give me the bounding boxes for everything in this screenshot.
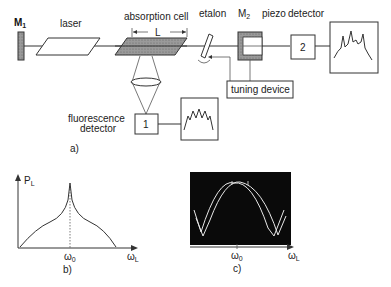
detector-2: detector 2 [288,8,378,73]
diagram-c: ω0 ωL c) [190,172,300,274]
fluorescence-label-line2: detector [80,123,117,134]
fluorescence-detector: fluorescence detector 1 [68,98,218,140]
piezo-label: piezo [262,8,286,19]
mirror-m1-label: M1 [14,17,26,29]
diagram-a: M1 laser absorption cell L [14,8,378,154]
detector1-box-label: 1 [143,119,149,130]
tuning-device-label: tuning device [231,84,290,95]
diagram-b: PL ω0 ωL b) [15,174,139,275]
tuning-device: tuning device [208,55,293,98]
laser-medium [36,38,100,55]
y-axis-arrowhead [15,174,21,181]
detector2-box-label: 2 [300,42,306,53]
cone-line [146,82,160,114]
lens [131,78,161,86]
laser-spectroscopy-diagram: M1 laser absorption cell L [0,0,391,287]
power-curve [20,183,116,247]
mirror-m1-body [18,32,24,60]
rotation-arrow-icon [198,60,210,63]
arrowhead-right [182,30,186,34]
mirror-m2-label: M2 [238,8,250,20]
absorption-cell-label: absorption cell [124,11,188,22]
arrowhead-left [133,30,137,34]
x-axis-label: ωL [288,250,300,262]
absorption-cell: absorption cell L [115,11,188,55]
collection-optics [131,56,161,114]
center-frequency-label: ω0 [231,250,243,262]
laser: laser [36,18,100,55]
cone-line [132,82,146,114]
y-axis-label: PL [24,175,35,187]
detector2-label: detector [288,8,325,19]
detector2-scope [330,22,378,73]
mirror-m2-piezo: M2 piezo [238,8,286,60]
x-axis-label: ωL [127,251,139,263]
laser-label: laser [60,18,82,29]
mirror-m1: M1 [14,17,26,60]
caption-a: a) [70,143,79,154]
fluorescence-scope [181,98,218,140]
center-frequency-label: ω0 [64,251,76,263]
etalon: etalon [198,8,226,63]
length-label: L [155,27,161,38]
oscilloscope-screen [190,172,291,245]
etalon-label: etalon [199,8,226,19]
arrowhead [208,55,212,59]
caption-c: c) [233,263,241,274]
caption-b: b) [63,264,72,275]
